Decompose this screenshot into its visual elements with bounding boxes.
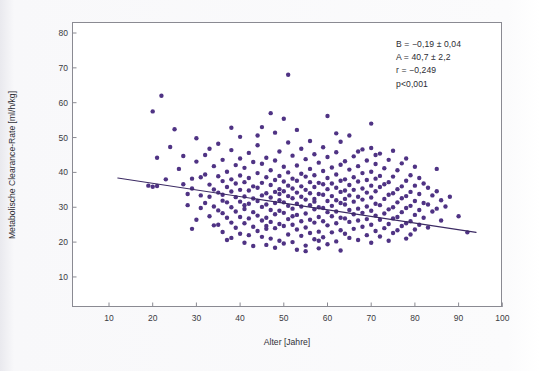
y-tick-label: 50 [46,133,68,143]
stat-pvalue: p<0,001 [396,78,461,91]
stat-correlation: r = −0,249 [396,64,461,77]
x-tick-label: 60 [323,313,332,323]
y-tick-label: 80 [46,28,68,38]
x-tick-label: 30 [192,313,201,323]
x-tick-label: 100 [495,313,509,323]
x-tick-label: 50 [279,313,288,323]
x-tick-label: 90 [454,313,463,323]
x-axis-title: Alter [Jahre] [264,337,310,347]
y-tick-label: 10 [46,272,68,282]
y-tick-label: 60 [46,98,68,108]
statistics-annotation: B = −0,19 ± 0,04 A = 40,7 ± 2,2 r = −0,2… [396,38,461,91]
x-tick-label: 80 [410,313,419,323]
y-tick-label: 30 [46,202,68,212]
x-tick-label: 10 [104,313,113,323]
stat-intercept: A = 40,7 ± 2,2 [396,51,461,64]
scatter-figure: 1020304050607080 102030405060708090100 M… [0,0,540,371]
y-tick-label: 20 [46,237,68,247]
x-tick-label: 20 [148,313,157,323]
figure-page: 1020304050607080 102030405060708090100 M… [0,0,540,371]
stat-slope: B = −0,19 ± 0,04 [396,38,461,51]
y-tick-label: 70 [46,63,68,73]
x-tick-label: 40 [235,313,244,323]
x-tick-label: 70 [366,313,375,323]
y-tick-label: 40 [46,167,68,177]
y-axis-title: Metabolische Clearance-Rate [ml/h/kg] [7,91,17,239]
